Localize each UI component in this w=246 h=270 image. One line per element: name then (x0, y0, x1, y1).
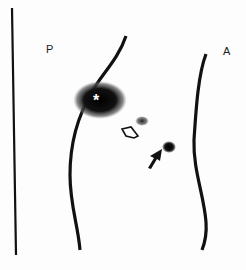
figure-drawing (0, 0, 246, 270)
uptake-blob-large (73, 81, 127, 119)
posterior-contour (70, 36, 126, 250)
open-arrow-icon (122, 127, 138, 138)
solid-arrow-icon (148, 149, 162, 169)
anterior-label: A (223, 45, 230, 57)
uptake-focus-faint (135, 116, 149, 126)
asterisk-marker: * (93, 92, 99, 110)
scintigraphy-figure: P A * (0, 0, 246, 270)
uptake-focus-dark (162, 141, 176, 153)
posterior-label: P (46, 43, 53, 55)
anterior-contour (194, 54, 206, 250)
left-edge-line (12, 8, 16, 255)
